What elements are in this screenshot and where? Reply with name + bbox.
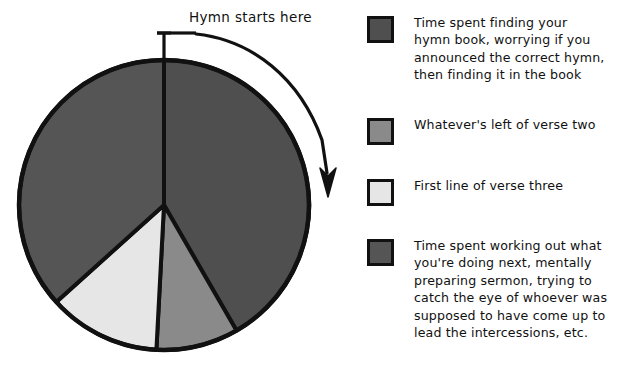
pie-chart-svg (0, 0, 355, 375)
legend-label-4: Time spent working out what you're doing… (414, 237, 607, 341)
legend-item-finding-hymn-book[interactable]: Time spent finding your hymn book, worry… (355, 14, 605, 84)
legend-label-1: Time spent finding your hymn book, worry… (414, 14, 605, 84)
legend: Time spent finding your hymn book, worry… (355, 0, 621, 375)
legend-swatch-1 (367, 16, 394, 43)
legend-item-working-out-next[interactable]: Time spent working out what you're doing… (355, 237, 607, 341)
legend-label-3: First line of verse three (414, 177, 563, 194)
hymn-start-annotation-label: Hymn starts here (189, 9, 312, 25)
legend-item-verse-three[interactable]: First line of verse three (355, 177, 563, 206)
legend-label-2: Whatever's left of verse two (414, 116, 596, 133)
legend-item-verse-two[interactable]: Whatever's left of verse two (355, 116, 596, 145)
legend-swatch-4 (367, 239, 394, 266)
figure-root: Hymn starts here Time spent finding your… (0, 0, 621, 375)
legend-swatch-3 (367, 179, 394, 206)
pie-chart-panel: Hymn starts here (0, 0, 355, 375)
legend-swatch-2 (367, 118, 394, 145)
